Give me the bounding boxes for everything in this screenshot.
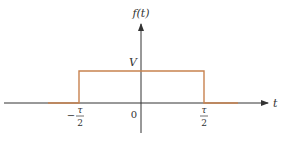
right-edge-label: τ 2 [200,105,208,128]
pulse-diagram: f(t) t V 0 − τ 2 τ 2 [0,0,288,143]
minus-sign: − [67,110,75,121]
left-edge-denominator: 2 [77,118,83,128]
x-axis-label: t [273,97,278,110]
origin-label: 0 [131,109,137,120]
left-edge-label: − τ 2 [67,105,84,128]
pulse-waveform [48,71,238,103]
right-edge-numerator: τ [202,105,208,115]
left-edge-numerator: τ [78,105,84,115]
right-edge-denominator: 2 [201,118,207,128]
y-axis-label: f(t) [131,7,149,20]
amplitude-label: V [129,56,138,69]
